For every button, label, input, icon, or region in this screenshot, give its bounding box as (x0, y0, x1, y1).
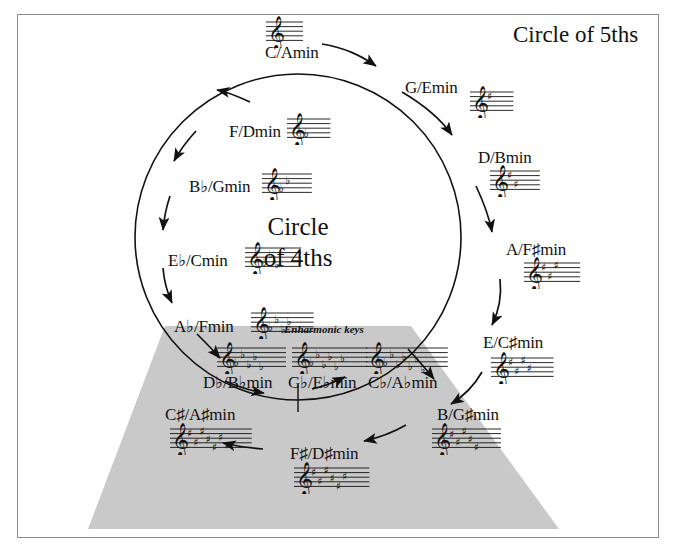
svg-text:♯: ♯ (342, 470, 347, 483)
svg-text:𝄞: 𝄞 (268, 15, 285, 48)
key-signature-staff-cb: 𝄞♭♭♭♭♭♭♭ (364, 340, 449, 378)
svg-text:♭: ♭ (246, 358, 251, 371)
key-label-eb: E♭/Cmin (168, 252, 228, 269)
arrow-g-to-d (402, 92, 452, 135)
svg-text:♯: ♯ (468, 433, 473, 446)
arrow-eb-to-ab (163, 268, 172, 303)
svg-text:♭: ♭ (285, 174, 290, 187)
key-signature-staff-b: 𝄞♯♯♯♯♯ (430, 421, 502, 459)
svg-text:♭: ♭ (315, 348, 320, 361)
key-label-bb: B♭/Gmin (189, 178, 250, 195)
svg-text:♯: ♯ (317, 475, 322, 488)
svg-text:♯: ♯ (474, 441, 479, 454)
svg-text:♭: ♭ (383, 356, 388, 369)
svg-text:♭: ♭ (234, 356, 239, 369)
key-signature-staff-gb: 𝄞♭♭♭♭♭♭ (290, 340, 368, 378)
key-signature-staff-bb: 𝄞♭♭ (260, 166, 313, 204)
svg-text:♭: ♭ (262, 256, 267, 269)
svg-text:♯: ♯ (224, 439, 229, 452)
svg-text:♯: ♯ (553, 259, 558, 272)
svg-text:♭: ♭ (414, 352, 419, 365)
svg-text:♯: ♯ (508, 357, 513, 370)
svg-text:♭: ♭ (389, 348, 394, 361)
key-label-e: E/C♯min (483, 334, 543, 351)
svg-text:♯: ♯ (455, 436, 460, 449)
key-label-g: G/Emin (405, 79, 458, 96)
svg-text:♯: ♯ (206, 433, 211, 446)
svg-text:♭: ♭ (268, 321, 273, 334)
svg-text:♯: ♯ (218, 431, 223, 444)
svg-text:♭: ♭ (334, 360, 339, 373)
svg-text:♯: ♯ (187, 428, 192, 441)
svg-text:♯: ♯ (514, 365, 519, 378)
svg-text:♯: ♯ (507, 170, 512, 183)
key-signature-staff-d: 𝄞♯♯ (488, 163, 541, 201)
key-signature-staff-ab: 𝄞♭♭♭♭ (249, 305, 315, 343)
svg-text:♭: ♭ (408, 360, 413, 373)
svg-text:♭: ♭ (240, 348, 245, 361)
svg-text:♭: ♭ (328, 350, 333, 363)
key-signature-staff-eb: 𝄞♭♭♭ (243, 240, 302, 278)
svg-text:♭: ♭ (402, 350, 407, 363)
svg-text:♯: ♯ (212, 441, 217, 454)
key-signature-staff-f: 𝄞♭ (285, 111, 331, 149)
svg-text:♯: ♯ (311, 467, 316, 480)
svg-text:♭: ♭ (274, 258, 279, 271)
svg-text:♭: ♭ (279, 182, 284, 195)
svg-text:♯: ♯ (330, 472, 335, 485)
svg-text:♯: ♯ (547, 270, 552, 283)
svg-text:♯: ♯ (336, 480, 341, 493)
svg-text:♯: ♯ (323, 464, 328, 477)
key-label-ab: A♭/Fmin (174, 318, 234, 335)
svg-text:♭: ♭ (253, 350, 258, 363)
arrow-c-to-f (217, 90, 250, 102)
svg-text:♯: ♯ (193, 436, 198, 449)
svg-text:♯: ♯ (449, 428, 454, 441)
arrow-bb-to-eb (163, 196, 170, 230)
circle-of-fifths-figure: Circle of 5ths Circle of 4ths Enharmonic… (0, 0, 676, 554)
svg-text:♯: ♯ (199, 425, 204, 438)
svg-text:♯: ♯ (513, 178, 518, 191)
arrow-a-to-e (492, 279, 501, 325)
svg-text:♭: ♭ (268, 248, 273, 261)
svg-text:♭: ♭ (420, 363, 425, 374)
arrow-c-to-g (322, 44, 376, 66)
svg-text:♭: ♭ (304, 127, 309, 140)
svg-text:♭: ♭ (309, 356, 314, 369)
key-signature-staff-g: 𝄞♯ (468, 84, 514, 122)
arrow-f-to-bb (174, 131, 196, 161)
svg-text:♯: ♯ (520, 354, 525, 367)
key-signature-staff-c: 𝄞 (264, 14, 304, 52)
svg-text:♭: ♭ (280, 323, 285, 336)
key-signature-staff-db: 𝄞♭♭♭♭♭ (215, 340, 287, 378)
svg-text:♯: ♯ (541, 262, 546, 275)
svg-text:♭: ♭ (321, 358, 326, 371)
svg-text:♭: ♭ (287, 315, 292, 328)
svg-text:♭: ♭ (259, 360, 264, 373)
svg-text:♭: ♭ (274, 313, 279, 326)
svg-text:♯: ♯ (461, 425, 466, 438)
key-signature-staff-cs: 𝄞♯♯♯♯♯♯♯ (168, 421, 253, 459)
svg-text:♭: ♭ (395, 358, 400, 371)
key-signature-staff-e: 𝄞♯♯♯♯ (489, 350, 555, 388)
center-caption-line1: Circle (228, 212, 368, 243)
key-label-f: F/Dmin (229, 123, 281, 140)
svg-text:♯: ♯ (487, 91, 492, 104)
key-signature-staff-fs: 𝄞♯♯♯♯♯♯ (292, 460, 370, 498)
svg-text:♭: ♭ (340, 352, 345, 365)
key-signature-staff-a: 𝄞♯♯♯ (522, 255, 581, 293)
svg-text:♯: ♯ (527, 362, 532, 375)
page-title: Circle of 5ths (513, 22, 638, 48)
